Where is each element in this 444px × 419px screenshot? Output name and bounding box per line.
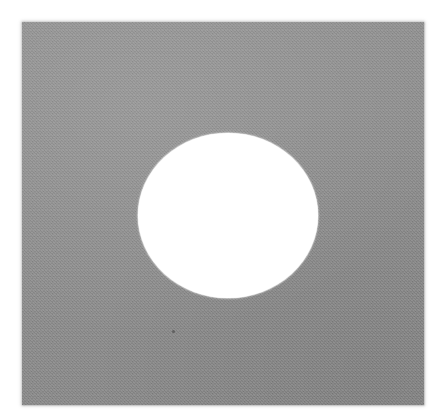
gray-square-plate xyxy=(22,22,424,405)
dark-speck xyxy=(172,330,175,333)
image-canvas: Gray square plate with a white circular … xyxy=(0,0,444,419)
white-circular-aperture xyxy=(138,133,318,298)
